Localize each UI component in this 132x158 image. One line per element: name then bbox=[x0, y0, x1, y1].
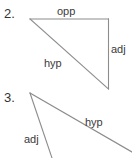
problem-number-2: 2. bbox=[4, 7, 15, 20]
triangle-figures-svg bbox=[0, 0, 132, 158]
triangle-3-adjacent-side bbox=[30, 93, 52, 158]
triangle-3-group bbox=[30, 93, 132, 158]
triangle-3-hypotenuse-label: hyp bbox=[85, 117, 103, 128]
triangle-3-hypotenuse-side bbox=[30, 93, 132, 152]
triangle-2-group bbox=[30, 19, 109, 89]
triangle-2-hypotenuse-side bbox=[30, 19, 109, 89]
problem-number-3: 3. bbox=[4, 91, 15, 104]
triangle-3-adjacent-label: adj bbox=[24, 134, 39, 145]
triangle-2-hypotenuse-label: hyp bbox=[44, 58, 62, 69]
geometry-worksheet: 2. opp adj hyp 3. hyp adj bbox=[0, 0, 132, 158]
triangle-2-opposite-label: opp bbox=[57, 6, 75, 17]
triangle-2-adjacent-label: adj bbox=[111, 44, 126, 55]
